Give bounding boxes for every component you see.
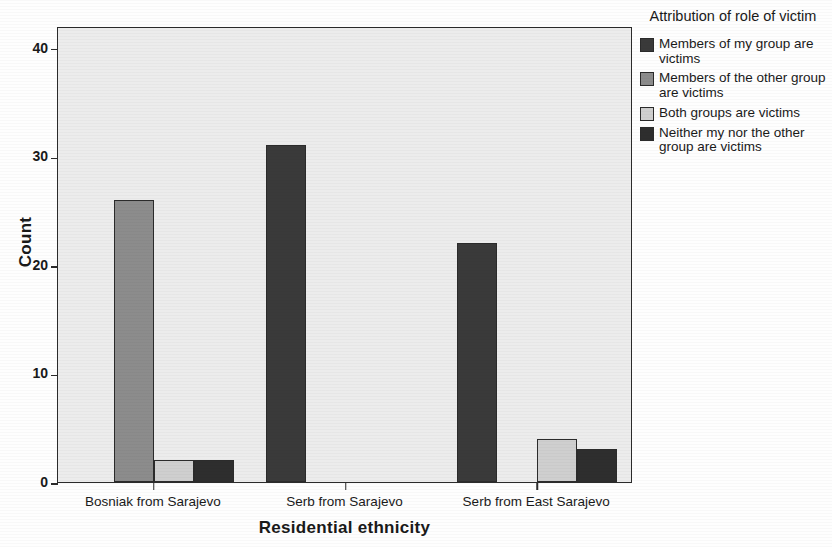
legend-swatch-icon [640,107,654,121]
legend: Attribution of role of victim Members of… [640,8,830,160]
y-tick-mark [51,49,58,51]
legend-title: Attribution of role of victim [640,8,826,24]
y-tick-mark [51,375,58,377]
legend-swatch-icon [640,127,654,141]
y-tick-mark [51,158,58,160]
legend-label: Both groups are victims [659,106,800,121]
bar [577,449,617,482]
legend-label: Neither my nor the other group are victi… [659,126,830,155]
bar [266,145,306,482]
x-tick-label: Bosniak from Sarajevo [85,494,221,509]
legend-entry[interactable]: Neither my nor the other group are victi… [640,126,830,155]
x-tick-mark [153,482,155,490]
legend-entry[interactable]: Members of my group are victims [640,37,830,66]
bar [154,460,194,482]
x-tick-label: Serb from Sarajevo [286,494,402,509]
chart-page: 010203040 Count Bosniak from SarajevoSer… [0,0,832,547]
x-tick-mark [536,482,538,490]
plot-area: 010203040 [57,27,632,483]
y-tick-mark [51,483,58,485]
y-tick-label: 40 [32,40,48,56]
x-axis-title: Residential ethnicity [57,518,632,538]
legend-swatch-icon [640,72,654,86]
bar [194,460,234,482]
legend-entries: Members of my group are victimsMembers o… [640,37,830,154]
legend-swatch-icon [640,38,654,52]
legend-label: Members of my group are victims [659,37,830,66]
x-tick-mark [345,482,347,490]
y-tick-label: 10 [32,365,48,381]
y-tick-label: 0 [40,474,48,490]
bar [114,200,154,482]
y-axis-title: Count [16,182,36,302]
y-tick-label: 30 [32,148,48,164]
legend-entry[interactable]: Both groups are victims [640,106,830,121]
legend-label: Members of the other group are victims [659,71,830,100]
bar [537,439,577,482]
bar [457,243,497,482]
y-tick-mark [51,266,58,268]
legend-entry[interactable]: Members of the other group are victims [640,71,830,100]
x-tick-label: Serb from East Sarajevo [463,494,610,509]
